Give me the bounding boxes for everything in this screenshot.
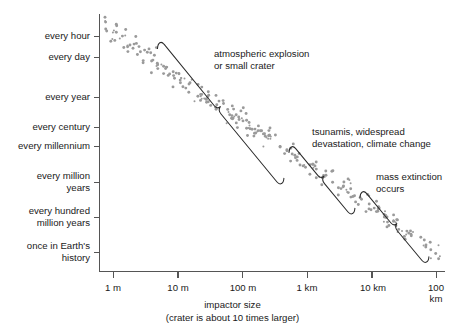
scatter-point: [304, 166, 307, 169]
scatter-point: [349, 187, 352, 190]
scatter-point: [267, 138, 269, 140]
brace-group: [158, 42, 429, 262]
scatter-point: [412, 231, 414, 233]
scatter-point: [252, 135, 255, 138]
scatter-point: [392, 213, 395, 216]
scatter-point: [122, 46, 125, 49]
scatter-point: [269, 127, 272, 130]
scatter-point: [315, 176, 318, 179]
scatter-point: [129, 44, 132, 47]
scatter-point: [166, 66, 168, 68]
impact-frequency-chart: every hour every day every year every ce…: [0, 0, 465, 332]
scatter-point: [438, 244, 440, 246]
scatter-point: [311, 163, 314, 166]
scatter-point: [231, 104, 234, 107]
scatter-point: [324, 170, 327, 173]
scatter-point: [199, 99, 202, 102]
scatter-point: [409, 229, 412, 232]
scatter-point: [218, 100, 221, 103]
y-tick-label-every-million-years: every million years: [37, 170, 90, 193]
scatter-point: [184, 78, 186, 80]
scatter-point: [429, 248, 432, 251]
scatter-point: [207, 100, 210, 103]
scatter-point: [249, 124, 251, 126]
scatter-point: [331, 181, 334, 184]
scatter-point: [267, 129, 270, 132]
scatter-point: [148, 47, 151, 50]
scatter-point: [294, 156, 297, 159]
scatter-point: [143, 49, 146, 52]
scatter-point: [245, 127, 248, 130]
scatter-point: [405, 230, 408, 233]
scatter-point: [293, 154, 296, 157]
annotation-atmospheric-explosion: atmospheric explosion or small crater: [214, 48, 309, 72]
scatter-point: [132, 47, 135, 50]
scatter-point: [124, 34, 126, 36]
scatter-point: [368, 207, 371, 210]
scatter-point: [245, 112, 248, 115]
y-tick-label-every-hundred-million-years: every hundred million years: [29, 205, 90, 228]
scatter-point: [299, 164, 302, 167]
scatter-point: [345, 189, 347, 191]
scatter-point: [315, 168, 318, 171]
scatter-point: [251, 128, 254, 131]
scatter-point: [104, 21, 107, 24]
y-tick-label-every-day: every day: [48, 51, 90, 63]
scatter-point: [283, 152, 286, 155]
scatter-point: [139, 50, 142, 53]
scatter-point: [296, 159, 299, 162]
scatter-point: [337, 194, 340, 197]
scatter-point: [156, 63, 159, 66]
scatter-point: [112, 32, 114, 34]
scatter-point: [384, 210, 386, 212]
scatter-point: [150, 60, 153, 63]
scatter-point: [254, 132, 257, 135]
scatter-point: [269, 138, 271, 140]
scatter-point: [331, 169, 334, 172]
scatter-point: [222, 102, 225, 105]
scatter-point: [149, 51, 152, 54]
scatter-point: [434, 252, 437, 255]
brace-mass-extinction: [360, 192, 429, 263]
scatter-point: [200, 86, 203, 89]
scatter-point: [126, 50, 129, 53]
scatter-point: [373, 207, 376, 210]
scatter-point: [235, 121, 238, 124]
scatter-point: [200, 95, 202, 97]
scatter-point: [368, 203, 371, 206]
scatter-point: [115, 31, 118, 34]
scatter-point: [393, 219, 395, 221]
scatter-point: [262, 132, 265, 135]
scatter-point: [160, 64, 162, 66]
scatter-point: [226, 122, 228, 124]
scatter-point: [270, 136, 272, 138]
scatter-point: [175, 72, 178, 75]
scatter-point: [133, 43, 136, 46]
scatter-point: [188, 83, 191, 86]
scatter-point: [238, 118, 241, 121]
scatter-point: [365, 210, 368, 213]
scatter-point: [196, 95, 199, 98]
scatter-point: [156, 67, 159, 70]
scatter-point: [127, 45, 129, 47]
scatter-point: [430, 257, 432, 259]
scatter-point: [232, 108, 235, 111]
x-axis-title: impactor size: [0, 299, 465, 311]
scatter-point: [215, 103, 218, 106]
brace-tsunamis: [289, 147, 355, 214]
scatter-point: [153, 54, 156, 57]
scatter-point: [340, 187, 343, 190]
scatter-point: [209, 104, 212, 107]
annotation-mass-extinction: mass extinction occurs: [376, 171, 442, 195]
scatter-point: [376, 210, 379, 213]
scatter-point: [233, 116, 235, 118]
scatter-point: [207, 90, 210, 93]
scatter-point: [184, 87, 187, 90]
scatter-point: [337, 186, 340, 189]
scatter-point: [375, 200, 378, 203]
scatter-point: [315, 161, 318, 164]
scatter-point: [179, 79, 182, 82]
scatter-point: [419, 236, 422, 239]
scatter-point: [237, 116, 240, 119]
scatter-point: [124, 28, 127, 31]
